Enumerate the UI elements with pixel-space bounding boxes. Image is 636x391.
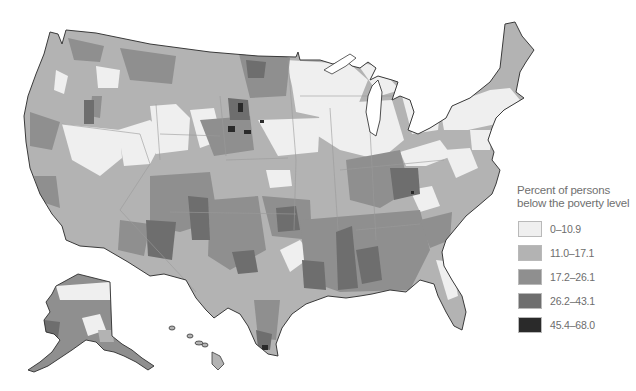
- alaska: [20, 270, 160, 380]
- legend-item: 11.0–17.1: [517, 241, 636, 265]
- legend-label: 26.2–43.1: [550, 295, 595, 307]
- legend-swatch-dark: [518, 293, 542, 309]
- legend-label: 11.0–17.1: [550, 247, 594, 259]
- legend-title-line1: Percent of persons: [517, 184, 636, 197]
- legend-item: 26.2–43.1: [517, 289, 636, 313]
- legend-swatch-medium: [518, 269, 542, 285]
- legend-items: 0–10.9 11.0–17.1 17.2–26.1 26.2–43.1 45.…: [517, 217, 636, 337]
- legend-label: 45.4–68.0: [550, 319, 595, 331]
- legend-swatch-light: [518, 245, 542, 261]
- legend-title-line2: below the poverty level: [517, 197, 636, 210]
- legend-item: 45.4–68.0: [517, 313, 636, 337]
- legend-item: 17.2–26.1: [517, 265, 636, 289]
- legend-item: 0–10.9: [517, 217, 636, 241]
- legend-swatch-lightest: [518, 221, 542, 237]
- map-legend: Percent of persons below the poverty lev…: [517, 184, 636, 337]
- legend-label: 17.2–26.1: [550, 271, 595, 283]
- hawaii: [169, 326, 224, 370]
- legend-swatch-darkest: [518, 317, 542, 333]
- legend-label: 0–10.9: [550, 223, 581, 235]
